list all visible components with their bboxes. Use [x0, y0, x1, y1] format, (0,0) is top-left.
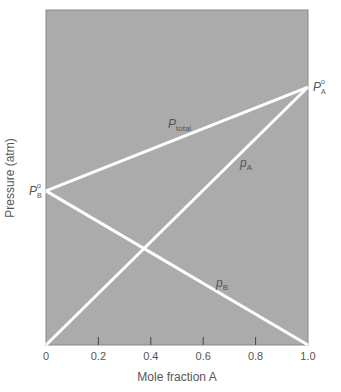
- annotation-p-a-pure: P o A: [313, 78, 326, 95]
- svg-text:P: P: [29, 184, 37, 198]
- annotation-p-b-pure: P o B: [29, 182, 42, 199]
- x-axis-label: Mole fraction A: [137, 370, 216, 384]
- y-axis-label: Pressure (atm): [3, 138, 17, 217]
- svg-text:o: o: [37, 182, 41, 189]
- x-tick-label: 0.6: [196, 350, 211, 362]
- svg-text:A: A: [321, 88, 326, 95]
- plot-area: [46, 10, 308, 345]
- x-tick-label: 1.0: [300, 350, 315, 362]
- x-axis-tick-labels: 00.20.40.60.81.0: [43, 350, 316, 362]
- x-tick-label: 0.4: [143, 350, 158, 362]
- svg-text:B: B: [37, 192, 42, 199]
- svg-text:P: P: [313, 80, 321, 94]
- svg-text:o: o: [321, 78, 325, 85]
- x-tick-label: 0.8: [248, 350, 263, 362]
- x-tick-label: 0: [43, 350, 49, 362]
- chart: 00.20.40.60.81.0 Mole fraction A Pressur…: [0, 0, 341, 392]
- x-tick-label: 0.2: [91, 350, 106, 362]
